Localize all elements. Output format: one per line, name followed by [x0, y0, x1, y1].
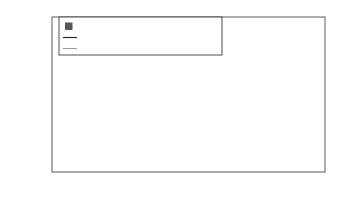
- legend-background: [59, 17, 222, 55]
- legend-marker-securitizations: [65, 23, 73, 31]
- chart-svg: [0, 0, 340, 204]
- chart-figure: [0, 0, 340, 204]
- chart-legend: [59, 17, 222, 55]
